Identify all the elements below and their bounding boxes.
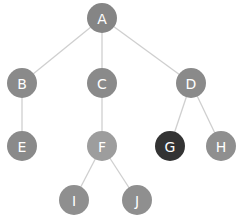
node-label: J (134, 193, 139, 209)
nodes-layer: ABCDEFGHIJ (7, 3, 236, 215)
node-e: E (7, 131, 37, 161)
edge-a-d (102, 18, 191, 83)
node-a: A (87, 3, 117, 33)
tree-diagram: ABCDEFGHIJ (0, 0, 240, 217)
node-b: B (7, 68, 37, 98)
node-label: D (186, 76, 197, 92)
node-label: G (165, 139, 176, 155)
node-i: I (59, 185, 89, 215)
node-label: E (18, 139, 27, 155)
node-d: D (176, 68, 206, 98)
node-label: I (72, 193, 76, 209)
node-label: C (97, 76, 107, 92)
node-h: H (206, 131, 236, 161)
node-label: B (17, 76, 27, 92)
node-label: F (98, 139, 106, 155)
node-c: C (87, 68, 117, 98)
node-label: A (97, 11, 107, 27)
node-label: H (216, 139, 227, 155)
edge-a-b (22, 18, 102, 83)
edges-layer (22, 18, 221, 200)
node-g: G (155, 131, 185, 161)
node-j: J (122, 185, 152, 215)
node-f: F (87, 131, 117, 161)
